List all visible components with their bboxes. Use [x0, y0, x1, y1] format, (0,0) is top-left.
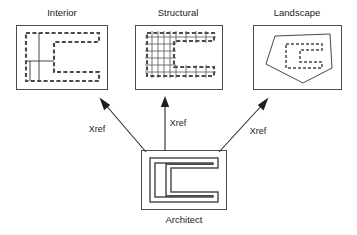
- edge-architect-to-landscape: Xref: [219, 98, 269, 153]
- node-landscape[interactable]: Landscape: [254, 7, 342, 90]
- xref-diagram-canvas: Interior Structural: [0, 0, 357, 235]
- edge-structural-arrowhead: [161, 96, 169, 107]
- node-structural[interactable]: Structural: [136, 7, 223, 90]
- node-structural-frame: [136, 26, 223, 90]
- edge-interior-label: Xref: [89, 124, 106, 134]
- node-structural-label: Structural: [158, 7, 199, 18]
- edge-architect-to-structural: Xref: [161, 96, 187, 150]
- edge-architect-to-interior: Xref: [89, 98, 146, 153]
- edge-interior-line: [105, 104, 147, 153]
- node-interior[interactable]: Interior: [17, 7, 108, 90]
- diagram-svg: Interior Structural: [0, 0, 357, 235]
- node-landscape-label: Landscape: [274, 7, 320, 18]
- node-architect-label: Architect: [166, 214, 203, 225]
- edge-landscape-label: Xref: [250, 126, 267, 136]
- node-interior-label: Interior: [47, 7, 77, 18]
- node-architect[interactable]: Architect: [142, 151, 227, 226]
- edge-structural-label: Xref: [170, 118, 187, 128]
